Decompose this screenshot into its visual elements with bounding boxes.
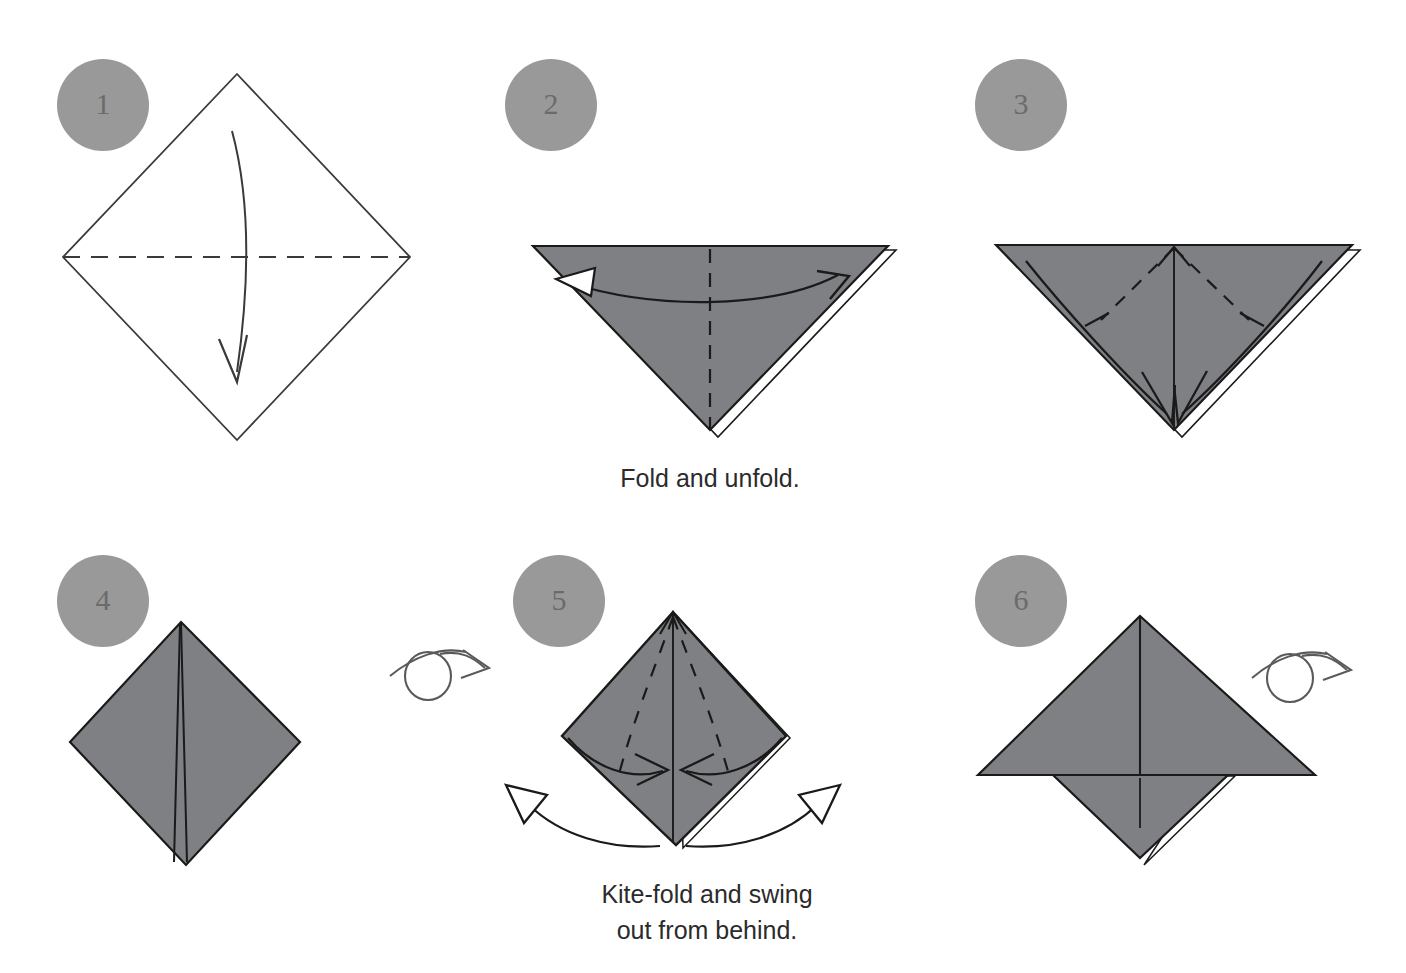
step-number-label: 5 <box>552 583 567 616</box>
step-4-badge: 4 <box>57 555 149 647</box>
step-number-label: 6 <box>1014 583 1029 616</box>
origami-instruction-sheet: 1 2 <box>0 0 1406 973</box>
step-2-caption: Fold and unfold. <box>620 464 799 492</box>
step-6-badge: 6 <box>975 555 1067 647</box>
step-5-caption-line-2: out from behind. <box>617 916 798 944</box>
step-3-badge: 3 <box>975 59 1067 151</box>
step-number-label: 4 <box>96 583 111 616</box>
step-number-label: 1 <box>96 87 111 120</box>
step-2-badge: 2 <box>505 59 597 151</box>
step-number-label: 2 <box>544 87 559 120</box>
step-5-caption-line-1: Kite-fold and swing <box>601 880 812 908</box>
step-number-label: 3 <box>1014 87 1029 120</box>
diagram-canvas: 1 2 <box>0 0 1406 973</box>
step-1-badge: 1 <box>57 59 149 151</box>
step-5-badge: 5 <box>513 555 605 647</box>
